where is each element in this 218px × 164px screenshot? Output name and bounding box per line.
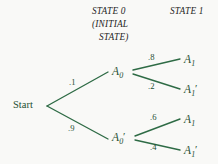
- node-a1-bottom: A1: [184, 113, 195, 128]
- node-a0p-prime: ′: [123, 130, 125, 142]
- column-header-state0-line2: (INITIAL: [92, 20, 128, 29]
- column-header-state0-line3: STATE): [99, 33, 129, 42]
- edge-label-a0-to-a1p: .2: [148, 82, 154, 91]
- column-header-state0-line1: STATE 0: [92, 7, 126, 16]
- node-a1-bot-subscript: 1: [191, 119, 195, 128]
- edge-a0p-to-a1p: [135, 140, 180, 150]
- node-a1p-bot-prime: ′: [195, 143, 197, 155]
- edge-label-a0-to-a1: .8: [148, 53, 154, 62]
- node-a0-subscript: 0: [119, 71, 123, 80]
- node-a0: A0: [112, 65, 123, 80]
- node-a1-top-subscript: 1: [191, 59, 195, 68]
- node-a1p-bot-base: A: [184, 144, 191, 156]
- edge-start-to-a0: [47, 72, 108, 106]
- node-a1-top: A1: [184, 53, 195, 68]
- node-a1-bot-base: A: [184, 113, 191, 125]
- node-a1-top-base: A: [184, 53, 191, 65]
- edge-label-a0p-to-a1p: .4: [150, 143, 156, 152]
- node-a1p-top-prime: ′: [195, 82, 197, 94]
- edge-label-start-to-a0p: .9: [68, 124, 74, 133]
- edge-label-start-to-a0: .1: [69, 78, 75, 87]
- node-start: Start: [13, 100, 33, 111]
- node-a0-prime-node: A0′: [112, 131, 125, 146]
- edge-label-a0p-to-a1: .6: [150, 113, 156, 122]
- node-a0p-base: A: [112, 131, 119, 143]
- edge-a0-to-a1: [133, 59, 180, 70]
- edge-start-to-a0p: [47, 106, 108, 139]
- edge-a0-to-a1p: [133, 74, 180, 89]
- node-a1-prime-top: A1′: [184, 83, 197, 98]
- probability-tree-diagram: STATE 0 (INITIAL STATE) STATE 1 Start A0…: [0, 0, 218, 164]
- node-a1p-top-base: A: [184, 83, 191, 95]
- node-a1-prime-bottom: A1′: [184, 144, 197, 159]
- edge-a0p-to-a1: [135, 119, 180, 136]
- column-header-state1: STATE 1: [170, 7, 204, 16]
- node-a0-base: A: [112, 65, 119, 77]
